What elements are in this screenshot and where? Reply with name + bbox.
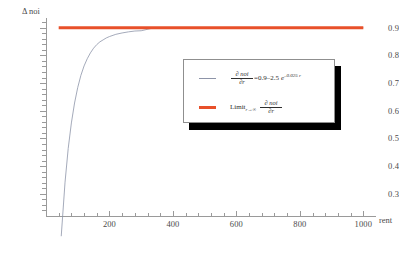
limit-operator: Limit r→∞	[230, 104, 256, 111]
legend-entry-derivative: ∂ noi ∂r =0.9–2.5 e –0.025 r	[184, 64, 334, 92]
fraction-dnoi-dr: ∂ noi ∂r	[231, 71, 253, 86]
equation-right-side: =0.9–2.5 e –0.025 r	[254, 75, 301, 82]
fraction-numerator: ∂ noi	[263, 100, 280, 107]
legend-formula-limit: Limit r→∞ ∂ noi ∂r	[230, 100, 334, 115]
chart-legend: ∂ noi ∂r =0.9–2.5 e –0.025 r Limit r→∞	[183, 59, 335, 123]
chart-root: Δ noi rent 0.30.40.50.60.70.80.920040060…	[0, 0, 399, 259]
legend-formula-derivative: ∂ noi ∂r =0.9–2.5 e –0.025 r	[230, 71, 334, 86]
fraction-denominator: ∂r	[266, 108, 276, 115]
legend-swatch-red-line	[184, 106, 230, 109]
limit-subscript: r→∞	[246, 107, 257, 112]
limit-word: Limit	[230, 104, 246, 111]
fraction-dnoi-dr-limit: ∂ noi ∂r	[260, 100, 282, 115]
fraction-numerator: ∂ noi	[233, 71, 250, 78]
equation-coefficients: =0.9–2.5	[254, 75, 279, 82]
fraction-denominator: ∂r	[237, 79, 247, 86]
legend-swatch-gray-line	[184, 78, 230, 79]
exponential-power: –0.025 r	[284, 73, 301, 78]
legend-entry-limit: Limit r→∞ ∂ noi ∂r	[184, 92, 334, 122]
